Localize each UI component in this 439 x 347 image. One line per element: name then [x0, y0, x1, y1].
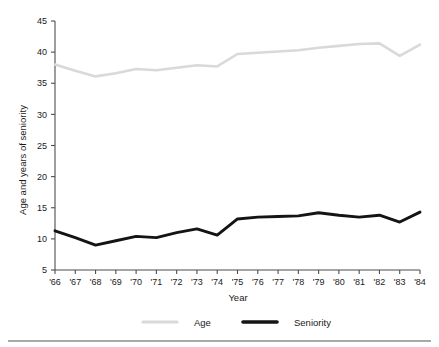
y-tick-label: 30 — [37, 110, 47, 120]
x-tick-label: '79 — [313, 277, 325, 287]
x-tick-label: '72 — [171, 277, 183, 287]
y-axis-tick-labels: 51015202530354045 — [37, 16, 47, 275]
x-tick-label: '70 — [130, 277, 142, 287]
y-tick-label: 25 — [37, 141, 47, 151]
x-tick-label: '76 — [252, 277, 264, 287]
chart-figure: 51015202530354045 '66'67'68'69'70'71'72'… — [0, 0, 439, 347]
y-tick-label: 35 — [37, 78, 47, 88]
x-tick-label: '68 — [90, 277, 102, 287]
x-tick-label: '71 — [151, 277, 163, 287]
legend-label-seniority: Seniority — [294, 317, 331, 328]
x-tick-label: '77 — [272, 277, 284, 287]
x-tick-label: '81 — [353, 277, 365, 287]
x-tick-label: '83 — [394, 277, 406, 287]
y-axis-title: Age and years of seniority — [17, 105, 28, 215]
x-tick-label: '82 — [374, 277, 386, 287]
x-tick-label: '73 — [191, 277, 203, 287]
x-tick-label: '75 — [232, 277, 244, 287]
x-tick-label: '84 — [414, 277, 426, 287]
y-tick-label: 40 — [37, 47, 47, 57]
y-tick-label: 10 — [37, 234, 47, 244]
legend-label-age: Age — [194, 317, 211, 328]
y-tick-label: 20 — [37, 172, 47, 182]
x-axis-title: Year — [228, 292, 247, 303]
x-tick-label: '74 — [211, 277, 223, 287]
x-tick-label: '69 — [110, 277, 122, 287]
y-tick-label: 45 — [37, 16, 47, 26]
x-tick-label: '80 — [333, 277, 345, 287]
x-tick-label: '67 — [69, 277, 81, 287]
y-tick-label: 5 — [42, 265, 47, 275]
chart-background — [0, 0, 439, 347]
x-tick-label: '66 — [49, 277, 61, 287]
y-tick-label: 15 — [37, 203, 47, 213]
line-chart-canvas: 51015202530354045 '66'67'68'69'70'71'72'… — [0, 0, 439, 347]
x-tick-label: '78 — [292, 277, 304, 287]
